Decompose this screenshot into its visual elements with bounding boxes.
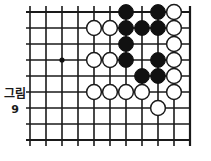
white-stone[interactable] [167,85,182,100]
stone-disc [135,85,150,100]
white-stone[interactable] [103,85,118,100]
stone-disc [103,21,118,36]
black-stone[interactable] [151,69,166,84]
go-diagram-figure: 그림 9 [0,0,211,161]
white-stone[interactable] [167,69,182,84]
stone-disc [119,5,134,20]
stone-disc [167,21,182,36]
stone-disc [103,53,118,68]
black-stone[interactable] [151,21,166,36]
stone-disc [151,21,166,36]
white-stone[interactable] [87,21,102,36]
black-stone[interactable] [119,5,134,20]
black-stone[interactable] [119,53,134,68]
white-stone[interactable] [87,53,102,68]
stone-disc [135,69,150,84]
black-stone[interactable] [151,5,166,20]
black-stone[interactable] [135,21,150,36]
white-stone[interactable] [87,85,102,100]
stone-disc [87,21,102,36]
stone-disc [151,69,166,84]
stone-disc [87,53,102,68]
stone-disc [151,101,166,116]
black-stone[interactable] [151,53,166,68]
stone-disc [151,5,166,20]
stone-disc [167,37,182,52]
white-stone[interactable] [119,85,134,100]
stone-disc [167,5,182,20]
star-point [59,57,64,62]
black-stone[interactable] [119,37,134,52]
white-stone[interactable] [167,21,182,36]
white-stone[interactable] [135,85,150,100]
stone-disc [119,37,134,52]
stone-disc [119,53,134,68]
stone-disc [87,85,102,100]
star-points [59,57,64,62]
stone-disc [119,21,134,36]
white-stone[interactable] [167,53,182,68]
black-stone[interactable] [135,69,150,84]
white-stone[interactable] [167,37,182,52]
stone-disc [167,53,182,68]
black-stone[interactable] [119,21,134,36]
stone-disc [151,53,166,68]
stone-disc [119,85,134,100]
go-board-canvas[interactable] [0,0,211,161]
stone-disc [167,85,182,100]
white-stone[interactable] [167,5,182,20]
stone-disc [167,69,182,84]
stone-disc [103,85,118,100]
white-stone[interactable] [151,101,166,116]
stone-disc [135,21,150,36]
white-stone[interactable] [103,21,118,36]
white-stone[interactable] [103,53,118,68]
